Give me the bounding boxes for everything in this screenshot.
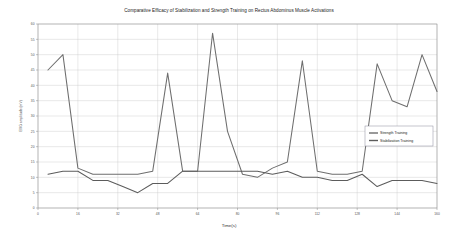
y-tick-label: 5 [33,191,35,195]
y-axis-label-text: EMG amplitude (mV) [19,100,23,132]
y-tick-label: 0 [33,206,35,210]
tick-labels: 0510152025303540455055600163248648096112… [31,22,440,216]
x-tick-label: 144 [394,212,400,216]
y-tick-label: 25 [31,130,35,134]
x-axis-label: Time(s) [0,223,458,228]
chart-legend[interactable]: Strength TrainingStabilization Training [365,126,433,146]
x-tick-label: 32 [116,212,120,216]
y-tick-label: 35 [31,99,35,103]
y-tick-label: 20 [31,145,35,149]
data-series [48,33,437,192]
x-tick-label: 96 [276,212,280,216]
y-tick-label: 15 [31,160,35,164]
y-tick-label: 60 [31,22,35,26]
y-axis-label: EMG amplitude (mV) [19,100,23,132]
y-tick-label: 50 [31,53,35,57]
y-tick-label: 40 [31,84,35,88]
x-tick-label: 112 [315,212,320,216]
chart-figure: Comparative Efficacy of Stabilization an… [0,0,458,241]
x-tick-label: 16 [76,212,80,216]
x-tick-label: 64 [196,212,200,216]
y-tick-label: 45 [31,68,35,72]
x-tick-label: 48 [156,212,160,216]
legend-label-0: Strength Training [380,131,407,135]
x-tick-label: 160 [434,212,440,216]
legend-label-1: Stabilization Training [380,139,413,143]
legend-box [365,126,433,146]
x-tick-label: 128 [354,212,360,216]
x-tick-label: 0 [37,212,39,216]
y-tick-label: 55 [31,38,35,42]
plot-area: 0510152025303540455055600163248648096112… [0,0,458,241]
x-tick-label: 80 [236,212,240,216]
y-tick-label: 30 [31,114,35,118]
y-tick-label: 10 [31,176,35,180]
